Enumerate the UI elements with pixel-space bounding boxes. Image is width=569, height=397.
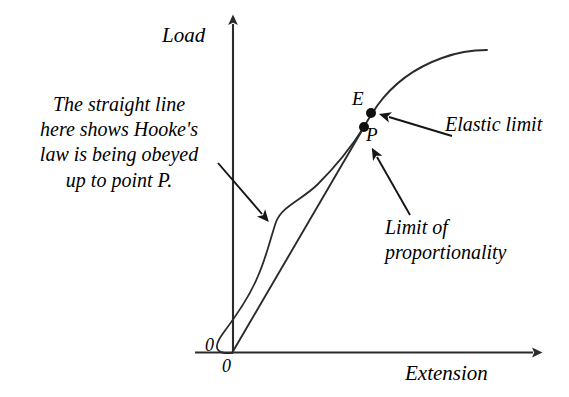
origin-label-below: 0 [222,355,231,378]
annotation-elastic-limit: Elastic limit [445,112,542,137]
annotation-hooke-law: The straight line here shows Hooke's law… [14,92,224,193]
point-label-p: P [366,123,378,147]
annotation-limit-of-proportionality: Limit of proportionality [385,215,560,265]
origin-label-left: 0 [205,334,214,357]
point-label-e: E [352,87,364,111]
limit-of-proportionality-arrow [377,157,410,215]
unloading-curve [217,127,364,353]
y-axis-label: Load [162,22,205,48]
x-axis-label: Extension [405,360,488,386]
graph-canvas [0,0,569,397]
point-marker-e [366,108,376,118]
load-extension-figure: Load Extension 0 0 E P The straight line… [0,0,569,397]
elastic-limit-arrow [389,117,452,136]
hooke-annotation-arrow [218,163,262,214]
